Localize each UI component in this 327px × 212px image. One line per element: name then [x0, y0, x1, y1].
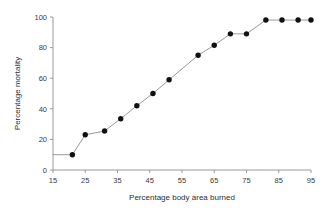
data-point-marker [118, 116, 123, 121]
mortality-line-chart: 020406080100 152535455565758595 Percenta… [0, 0, 327, 212]
x-tick-label: 75 [242, 176, 250, 185]
x-tick-label: 25 [81, 176, 89, 185]
y-tick-label: 60 [39, 74, 47, 83]
x-tick-label: 55 [178, 176, 186, 185]
data-point-marker [279, 17, 284, 22]
data-point-markers [70, 17, 314, 157]
x-tick-label: 65 [210, 176, 218, 185]
y-tick-label: 0 [43, 166, 47, 175]
data-point-marker [195, 53, 200, 58]
data-point-marker [134, 103, 139, 108]
data-point-marker [212, 43, 217, 48]
data-point-marker [263, 17, 268, 22]
series-line-mortality [72, 20, 311, 155]
data-point-marker [102, 128, 107, 133]
data-point-marker [244, 31, 249, 36]
data-point-marker [295, 17, 300, 22]
data-point-marker [83, 132, 88, 137]
x-tick-label: 45 [146, 176, 154, 185]
x-tick-label: 85 [275, 176, 283, 185]
axes [50, 17, 311, 173]
data-point-marker [308, 17, 313, 22]
data-series [53, 17, 314, 157]
y-tick-label: 80 [39, 43, 47, 52]
data-point-marker [150, 91, 155, 96]
data-point-marker [228, 31, 233, 36]
x-axis-title: Percentage body area burned [129, 193, 235, 202]
x-tick-label: 95 [307, 176, 315, 185]
x-axis-tick-labels: 152535455565758595 [49, 176, 315, 185]
x-tick-label: 15 [49, 176, 57, 185]
chart-figure: 020406080100 152535455565758595 Percenta… [0, 0, 327, 212]
y-axis-tick-labels: 020406080100 [34, 13, 47, 175]
data-point-marker [70, 152, 75, 157]
y-tick-label: 100 [34, 13, 47, 22]
y-tick-label: 40 [39, 105, 47, 114]
y-axis-title: Percentage mortality [13, 57, 22, 130]
x-tick-label: 35 [113, 176, 121, 185]
data-point-marker [166, 77, 171, 82]
y-tick-label: 20 [39, 135, 47, 144]
